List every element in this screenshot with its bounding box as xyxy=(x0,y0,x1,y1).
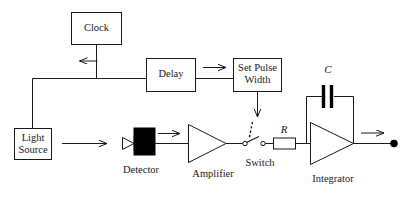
integrator-label: Integrator xyxy=(300,173,366,184)
photodiode-triangle-icon xyxy=(123,138,135,150)
output-terminal-dot xyxy=(391,140,398,147)
detector-label: Detector xyxy=(110,164,172,175)
light-source-label-line2: Source xyxy=(14,144,52,155)
resistor-body[interactable] xyxy=(274,138,296,149)
detector-black-body[interactable] xyxy=(134,128,155,155)
switch-terminal-right xyxy=(261,141,265,145)
amplifier-triangle[interactable] xyxy=(189,125,227,163)
delay-label: Delay xyxy=(146,68,196,79)
amplifier-label: Amplifier xyxy=(178,168,248,179)
wire-switch-control-dashed xyxy=(249,122,253,139)
switch-label: Switch xyxy=(236,157,284,168)
clock-label: Clock xyxy=(71,22,122,33)
switch-blade[interactable] xyxy=(247,137,260,143)
capacitor-label: C xyxy=(319,64,337,76)
set-pulse-width-label-line2: Width xyxy=(233,74,282,85)
set-pulse-width-label-line1: Set Pulse xyxy=(233,62,282,73)
integrator-triangle[interactable] xyxy=(311,123,354,165)
resistor-label: R xyxy=(275,124,293,136)
light-source-label-line1: Light xyxy=(14,132,52,143)
block-diagram-canvas: Clock Delay Set Pulse Width Light Source… xyxy=(0,0,411,199)
